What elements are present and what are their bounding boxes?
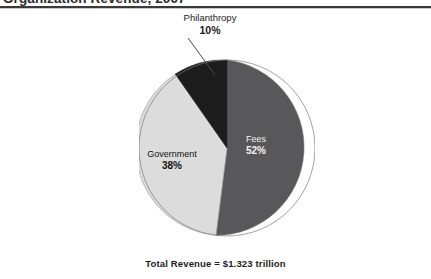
pie-chart-figure: Organization Revenue, 2007 Philanthropy … [0, 0, 431, 279]
total-revenue-caption: Total Revenue = $1.323 trillion [0, 258, 431, 269]
pie-chart [139, 53, 315, 245]
philanthropy-leader-line [186, 38, 226, 76]
slice-label-philanthropy-percent: 10% [158, 24, 262, 37]
slice-label-philanthropy-name: Philanthropy [158, 12, 262, 24]
slice-label-philanthropy: Philanthropy 10% [158, 12, 262, 37]
horizontal-rule-shadow [0, 8, 431, 9]
